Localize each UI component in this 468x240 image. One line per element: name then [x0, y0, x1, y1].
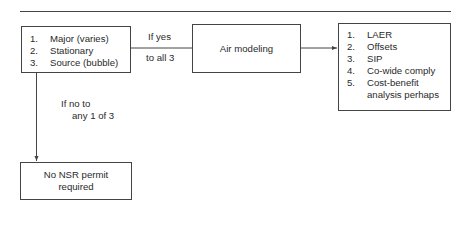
requirements-box: 1.LAER 2.Offsets 3.SIP 4.Co-wide comply … [338, 23, 451, 111]
requirement-item: 3.SIP [347, 53, 450, 65]
requirement-item: 2.Offsets [347, 41, 450, 53]
requirement-item: 1.LAER [347, 29, 450, 41]
no-permit-label-line2: required [58, 181, 93, 193]
criteria-item: 1.Major (varies) [30, 33, 130, 45]
yes-edge-label-line2: to all 3 [146, 52, 174, 64]
no-permit-label-line1: No NSR permit [44, 169, 109, 181]
air-modeling-label: Air modeling [220, 43, 273, 55]
requirement-item: 4.Co-wide comply [347, 65, 450, 77]
criteria-list: 1.Major (varies) 2.Stationary 3.Source (… [30, 33, 130, 69]
criteria-box: 1.Major (varies) 2.Stationary 3.Source (… [21, 26, 131, 73]
no-edge-label-line2: any 1 of 3 [72, 110, 114, 122]
yes-edge-label-line1: If yes [148, 31, 171, 43]
air-modeling-box: Air modeling [192, 24, 301, 73]
criteria-item: 3.Source (bubble) [30, 57, 130, 69]
requirements-list: 1.LAER 2.Offsets 3.SIP 4.Co-wide comply … [347, 29, 450, 101]
criteria-item: 2.Stationary [30, 45, 130, 57]
no-edge-label-line1: If no to [61, 98, 90, 110]
requirement-item: 5.Cost-benefit analysis perhaps [347, 77, 450, 101]
no-permit-box: No NSR permit required [20, 162, 132, 200]
